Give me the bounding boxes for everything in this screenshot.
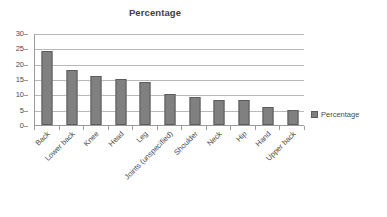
bar-knee[interactable]	[91, 76, 102, 125]
bar-slot	[256, 34, 281, 125]
bar-leg[interactable]	[140, 82, 151, 125]
chart-title: Percentage	[0, 7, 310, 18]
y-tick-mark	[24, 80, 28, 81]
x-tick-mark	[304, 126, 305, 130]
chart-legend: Percentage	[311, 110, 359, 119]
bar-neck[interactable]	[214, 100, 225, 125]
bar-hip[interactable]	[238, 100, 249, 125]
bar-upper-back[interactable]	[287, 110, 298, 125]
bar-slot	[182, 34, 207, 125]
y-tick-label: 30	[16, 30, 24, 38]
x-tick-label: Upper back	[207, 130, 297, 217]
bar-shoulder[interactable]	[189, 97, 200, 125]
bar-joints-unspecified[interactable]	[164, 94, 175, 125]
bar-slot	[158, 34, 183, 125]
bar-slot	[109, 34, 134, 125]
y-axis: 051015202530	[0, 34, 30, 126]
bar-lower-back[interactable]	[66, 70, 77, 125]
y-tick-label: 20	[16, 61, 24, 69]
bar-slot	[280, 34, 305, 125]
y-tick-mark	[24, 65, 28, 66]
y-tick-mark	[24, 111, 28, 112]
y-tick-label: 10	[16, 92, 24, 100]
bar-head[interactable]	[115, 79, 126, 125]
bar-slot	[84, 34, 109, 125]
legend-swatch-percentage	[311, 111, 318, 118]
x-axis-labels: BackLower backKneeHeadLegJoints (unspeci…	[34, 130, 304, 214]
bar-chart: Percentage 051015202530 BackLower backKn…	[0, 0, 387, 217]
bar-slot	[133, 34, 158, 125]
bar-slot	[207, 34, 232, 125]
bars-layer	[35, 34, 304, 125]
y-tick-mark	[24, 34, 28, 35]
bar-slot	[60, 34, 85, 125]
bar-back[interactable]	[42, 51, 53, 125]
bar-slot	[35, 34, 60, 125]
y-tick-label: 25	[16, 46, 24, 54]
bar-slot	[231, 34, 256, 125]
y-tick-mark	[24, 126, 28, 127]
plot-area	[34, 34, 304, 126]
y-tick-mark	[24, 95, 28, 96]
legend-label-percentage: Percentage	[321, 110, 359, 119]
y-tick-mark	[24, 49, 28, 50]
bar-hand[interactable]	[263, 107, 274, 125]
y-tick-label: 15	[16, 76, 24, 84]
